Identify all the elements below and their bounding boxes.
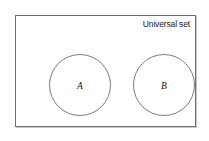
set-label-a: A [50,81,110,91]
universal-set-boundary: Universal set A B [15,15,196,127]
set-label-b: B [134,81,194,91]
venn-diagram-canvas: Universal set A B [0,0,209,141]
set-circle-b: B [133,54,195,116]
universal-set-label: Universal set [143,19,190,29]
set-circle-a: A [49,54,111,116]
